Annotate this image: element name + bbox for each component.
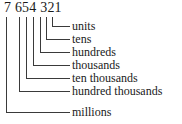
connector-hundreds	[41, 17, 71, 53]
label-hundred-thousands: hundred thousands	[72, 85, 162, 98]
connector-tens	[47, 17, 71, 40]
connector-hundred-thousands	[20, 17, 71, 92]
connector-millions	[7, 17, 71, 113]
connector-thousands	[34, 17, 71, 66]
place-value-diagram: 7 654 321 units tens hundreds thousands …	[0, 0, 182, 124]
connector-units	[53, 17, 71, 27]
label-millions: millions	[72, 106, 111, 119]
